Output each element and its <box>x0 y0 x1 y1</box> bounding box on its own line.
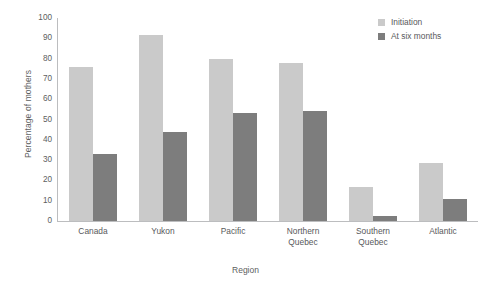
chart-legend: InitiationAt six months <box>378 16 441 44</box>
y-tick-label: 30 <box>28 156 52 164</box>
bar-group <box>279 18 327 221</box>
bar-group <box>69 18 117 221</box>
bar-group <box>349 18 397 221</box>
legend-label: At six months <box>391 31 441 41</box>
bar-chart: Percentage of mothers 010203040506070809… <box>0 0 491 290</box>
y-tick-label: 60 <box>28 95 52 103</box>
bar[interactable] <box>279 63 303 221</box>
x-axis-line <box>57 221 478 222</box>
legend-item[interactable]: At six months <box>378 30 441 42</box>
bar[interactable] <box>349 187 373 222</box>
x-tick-label: Southern Quebec <box>338 226 408 247</box>
y-tick-label: 100 <box>28 14 52 22</box>
bar[interactable] <box>303 111 327 221</box>
legend-swatch-icon <box>378 33 385 40</box>
y-tick-label: 10 <box>28 197 52 205</box>
y-tick-label: 0 <box>28 217 52 225</box>
y-tick-label: 40 <box>28 136 52 144</box>
bar[interactable] <box>163 132 187 221</box>
y-tick-label: 90 <box>28 34 52 42</box>
bar[interactable] <box>443 199 467 221</box>
x-tick-label: Pacific <box>198 226 268 237</box>
bar[interactable] <box>419 163 443 221</box>
y-axis-tick-labels: 0102030405060708090100 <box>26 0 52 290</box>
bar-group <box>419 18 467 221</box>
x-tick-label: Northern Quebec <box>268 226 338 247</box>
bar-group <box>139 18 187 221</box>
y-tick-label: 20 <box>28 176 52 184</box>
bar-group <box>209 18 257 221</box>
y-tick-label: 50 <box>28 116 52 124</box>
legend-swatch-icon <box>378 19 385 26</box>
bar[interactable] <box>93 154 117 221</box>
bar[interactable] <box>373 216 397 221</box>
x-tick-label: Yukon <box>128 226 198 237</box>
bar[interactable] <box>139 35 163 221</box>
bar[interactable] <box>69 67 93 221</box>
legend-label: Initiation <box>391 17 422 27</box>
legend-item[interactable]: Initiation <box>378 16 441 28</box>
bar[interactable] <box>233 113 257 221</box>
y-tick-label: 80 <box>28 55 52 63</box>
x-axis-title: Region <box>0 265 491 275</box>
y-tick-label: 70 <box>28 75 52 83</box>
x-tick-label: Canada <box>58 226 128 237</box>
x-tick-label: Atlantic <box>408 226 478 237</box>
bar[interactable] <box>209 59 233 221</box>
plot-area <box>58 18 478 221</box>
